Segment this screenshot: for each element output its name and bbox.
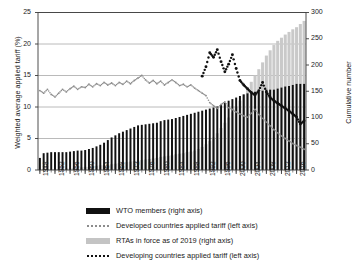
y-axis-right-tick: 0 (311, 166, 335, 173)
y-axis-left-title: Weighted average applied tariff (%) (13, 13, 22, 173)
y-axis-left-tick: 0 (9, 166, 31, 173)
x-axis-tick: 1988 (193, 161, 200, 176)
x-axis-tick: 1948 (42, 161, 49, 176)
y-axis-left-tick: 10 (9, 103, 31, 110)
x-axis-tick: 1960 (88, 161, 95, 176)
y-axis-left-tick: 5 (9, 134, 31, 141)
x-axis-tick: 2000 (239, 161, 246, 176)
y-axis-right-tick: 50 (311, 139, 335, 146)
y-axis-left-tick: 25 (9, 8, 31, 15)
x-axis-tick: 2012 (284, 161, 291, 176)
legend-swatch-gray-bar-icon (86, 238, 110, 244)
legend-item-label: WTO members (right axis) (116, 206, 203, 215)
y-axis-right-tick: 300 (311, 8, 335, 15)
x-axis-tick: 1972 (133, 161, 140, 176)
legend-swatch-dotted-dark-icon (86, 252, 110, 259)
legend-item[interactable]: RTAs in force as of 2019 (right axis) (86, 233, 316, 248)
x-axis-tick: 1992 (209, 161, 216, 176)
y-axis-right-tick: 250 (311, 34, 335, 41)
chart-legend: WTO members (right axis)Developed countr… (86, 203, 316, 263)
y-axis-right-tick: 100 (311, 113, 335, 120)
x-axis-tick: 1976 (148, 161, 155, 176)
legend-item[interactable]: WTO members (right axis) (86, 203, 316, 218)
legend-item-label: Developed countries applied tariff (left… (116, 221, 258, 230)
legend-item-label: RTAs in force as of 2019 (right axis) (116, 236, 233, 245)
x-axis-tick: 1996 (224, 161, 231, 176)
legend-item[interactable]: Developed countries applied tariff (left… (86, 218, 316, 233)
x-axis-tick: 1968 (118, 161, 125, 176)
x-axis-tick: 2016 (299, 161, 306, 176)
x-axis-tick: 2004 (254, 161, 261, 176)
legend-swatch-dotted-light-icon (86, 222, 110, 229)
y-axis-left-tick: 20 (9, 40, 31, 47)
y-axis-left-tick: 15 (9, 71, 31, 78)
legend-item[interactable]: Developing countries applied tariff (lef… (86, 248, 316, 263)
y-axis-right-tick: 150 (311, 87, 335, 94)
x-axis-tick: 2008 (269, 161, 276, 176)
y-axis-right-tick: 200 (311, 61, 335, 68)
x-axis-tick: 1980 (163, 161, 170, 176)
x-axis-tick: 1956 (73, 161, 80, 176)
x-axis-tick: 1952 (58, 161, 65, 176)
legend-item-label: Developing countries applied tariff (lef… (116, 251, 259, 260)
y-axis-right-title: Cumulative number (344, 13, 353, 173)
legend-swatch-black-bar-icon (86, 208, 110, 214)
x-axis-tick: 1964 (103, 161, 110, 176)
x-axis-tick: 1984 (178, 161, 185, 176)
